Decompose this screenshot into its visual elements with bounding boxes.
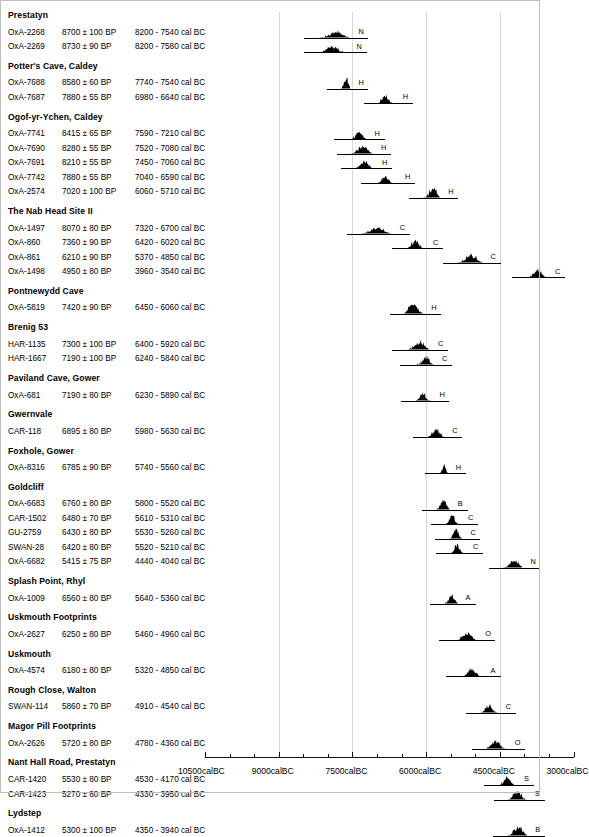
chart-gridline bbox=[279, 12, 280, 757]
cal-range-label: 3960 - 3540 cal BC bbox=[135, 267, 205, 276]
bp-date-label: 7190 ± 100 BP bbox=[62, 354, 116, 363]
x-axis-minor-tick bbox=[230, 754, 231, 758]
cal-range-label: 6400 - 5920 cal BC bbox=[135, 340, 205, 349]
distribution-baseline bbox=[392, 350, 448, 351]
bp-date-label: 6480 ± 70 BP bbox=[62, 514, 112, 523]
probability-distribution bbox=[450, 542, 465, 554]
lab-code-label: CAR-1502 bbox=[8, 514, 46, 523]
site-heading: Uskmouth bbox=[8, 649, 51, 659]
page-border bbox=[0, 0, 540, 1]
sample-material-code: C bbox=[555, 267, 560, 276]
probability-distribution bbox=[378, 92, 395, 104]
distribution-baseline bbox=[364, 103, 413, 104]
lab-code-label: OxA-5819 bbox=[8, 303, 45, 312]
sample-material-code: C bbox=[468, 513, 473, 522]
sample-material-code: H bbox=[381, 143, 386, 152]
probability-distribution bbox=[423, 186, 440, 198]
distribution-baseline bbox=[489, 568, 541, 569]
sample-material-code: H bbox=[448, 187, 453, 196]
x-axis-minor-tick bbox=[451, 754, 452, 758]
probability-distribution bbox=[427, 426, 444, 438]
probability-distribution bbox=[507, 824, 527, 836]
sample-material-code: N bbox=[530, 557, 535, 566]
lab-code-label: OxA-1497 bbox=[8, 224, 45, 233]
sample-material-code: N bbox=[357, 42, 362, 51]
cal-range-label: 6980 - 6640 cal BC bbox=[135, 93, 205, 102]
probability-distribution bbox=[415, 389, 432, 401]
cal-range-label: 7520 - 7080 cal BC bbox=[135, 144, 205, 153]
probability-distribution bbox=[486, 737, 507, 749]
bp-date-label: 6560 ± 80 BP bbox=[62, 594, 112, 603]
probability-distribution bbox=[341, 77, 351, 89]
cal-range-label: 5640 - 5360 cal BC bbox=[135, 594, 205, 603]
probability-distribution bbox=[414, 353, 434, 365]
lab-code-label: OxA-4574 bbox=[8, 666, 45, 675]
distribution-baseline bbox=[430, 604, 476, 605]
cal-range-label: 4780 - 4360 cal BC bbox=[135, 739, 205, 748]
probability-distribution bbox=[526, 266, 547, 278]
lab-code-label: SWAN-28 bbox=[8, 543, 44, 552]
cal-range-label: 6240 - 5840 cal BC bbox=[135, 354, 205, 363]
sample-material-code: C bbox=[491, 252, 496, 261]
probability-distribution bbox=[503, 556, 523, 568]
x-axis-minor-tick bbox=[475, 754, 476, 758]
bp-date-label: 6760 ± 80 BP bbox=[62, 499, 112, 508]
bp-date-label: 7020 ± 100 BP bbox=[62, 187, 116, 196]
cal-range-label: 5740 - 5560 cal BC bbox=[135, 463, 205, 472]
distribution-baseline bbox=[439, 640, 496, 641]
x-axis-major-tick bbox=[426, 752, 427, 757]
lab-code-label: OxA-6683 bbox=[8, 499, 45, 508]
cal-range-label: 8200 - 7540 cal BC bbox=[135, 28, 205, 37]
probability-distribution bbox=[318, 41, 349, 53]
lab-code-label: OxA-7690 bbox=[8, 144, 45, 153]
lab-code-label: OxA-2268 bbox=[8, 28, 45, 37]
x-axis-line bbox=[205, 757, 574, 758]
lab-code-label: HAR-1135 bbox=[8, 340, 46, 349]
sample-material-code: A bbox=[466, 593, 471, 602]
probability-distribution bbox=[453, 629, 478, 641]
bp-date-label: 8415 ± 65 BP bbox=[62, 129, 112, 138]
chart-gridline bbox=[426, 12, 427, 757]
sample-material-code: H bbox=[431, 303, 436, 312]
lab-code-label: OxA-2574 bbox=[8, 187, 45, 196]
cal-range-label: 6230 - 5890 cal BC bbox=[135, 391, 205, 400]
site-heading: Magor Pill Footprints bbox=[8, 721, 96, 731]
distribution-baseline bbox=[446, 676, 501, 677]
bp-date-label: 8700 ± 100 BP bbox=[62, 28, 116, 37]
x-axis-major-tick bbox=[279, 752, 280, 757]
chart-gridline bbox=[500, 12, 501, 757]
sample-material-code: H bbox=[382, 158, 387, 167]
lab-code-label: OxA-1498 bbox=[8, 267, 45, 276]
sample-material-code: H bbox=[405, 172, 410, 181]
distribution-baseline bbox=[422, 510, 468, 511]
distribution-baseline bbox=[334, 139, 385, 140]
cal-range-label: 7590 - 7210 cal BC bbox=[135, 129, 205, 138]
cal-range-label: 5460 - 4960 cal BC bbox=[135, 630, 205, 639]
distribution-baseline bbox=[413, 437, 462, 438]
lab-code-label: OxA-1009 bbox=[8, 594, 45, 603]
site-heading: Splash Point, Rhyl bbox=[8, 576, 85, 586]
lab-code-label: OxA-860 bbox=[8, 238, 40, 247]
x-axis-major-tick bbox=[574, 752, 575, 757]
x-axis-minor-tick bbox=[549, 754, 550, 758]
sample-material-code: B bbox=[458, 499, 463, 508]
bp-date-label: 7880 ± 55 BP bbox=[62, 93, 112, 102]
cal-range-label: 4910 - 4540 cal BC bbox=[135, 702, 205, 711]
x-axis-major-tick bbox=[205, 752, 206, 757]
lab-code-label: SWAN-114 bbox=[8, 702, 48, 711]
lab-code-label: OxA-7691 bbox=[8, 158, 45, 167]
probability-distribution bbox=[375, 172, 397, 184]
cal-range-label: 6420 - 6020 cal BC bbox=[135, 238, 205, 247]
chart-gridline bbox=[352, 12, 353, 757]
distribution-baseline bbox=[484, 785, 534, 786]
cal-range-label: 4330 - 3950 cal BC bbox=[135, 790, 205, 799]
distribution-baseline bbox=[304, 52, 367, 53]
bp-date-label: 6180 ± 80 BP bbox=[62, 666, 112, 675]
distribution-baseline bbox=[472, 749, 525, 750]
site-heading: Paviland Cave, Gower bbox=[8, 373, 100, 383]
probability-distribution bbox=[445, 513, 460, 525]
distribution-baseline bbox=[435, 539, 480, 540]
probability-distribution bbox=[444, 592, 458, 604]
bp-date-label: 5860 ± 70 BP bbox=[62, 702, 112, 711]
bp-date-label: 5270 ± 80 BP bbox=[62, 790, 112, 799]
